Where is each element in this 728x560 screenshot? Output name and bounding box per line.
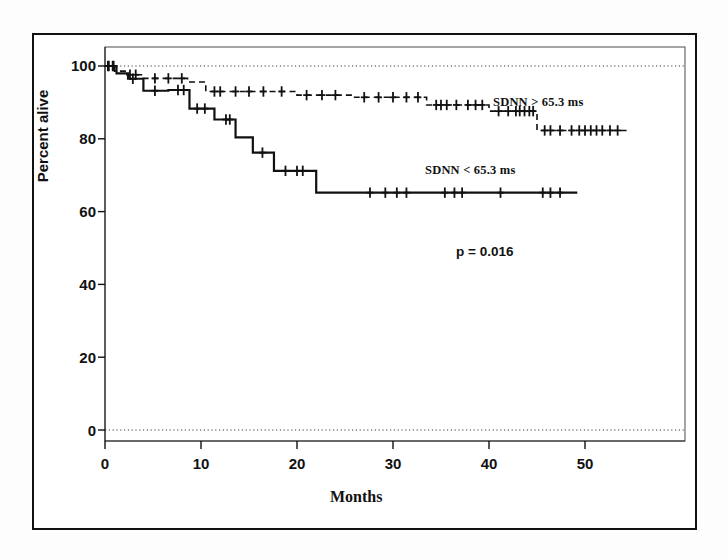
plot-frame: [105, 47, 685, 441]
figure-page: 100 80 60 40 20 0 0 10 20 30 40 50 Perce…: [0, 0, 728, 560]
survival-curve-low: [105, 61, 577, 198]
survival-chart-svg: [0, 0, 728, 560]
survival-curve-high: [104, 61, 628, 136]
survival-curves: [104, 61, 628, 198]
axis-ticks: [98, 47, 685, 449]
reference-lines: [105, 66, 685, 430]
